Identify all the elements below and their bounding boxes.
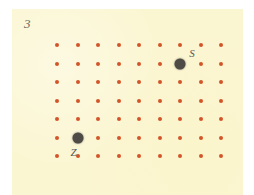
grid-dot <box>76 99 80 103</box>
grid-dot <box>55 62 59 66</box>
grid-dot <box>158 80 162 84</box>
grid-dot <box>158 43 162 47</box>
grid-dot <box>76 80 80 84</box>
grid-dot <box>55 154 59 158</box>
grid-dot <box>158 154 162 158</box>
grid-dot <box>178 43 182 47</box>
grid-dot <box>219 80 223 84</box>
grid-dot <box>96 117 100 121</box>
grid-dot <box>199 136 203 140</box>
grid-dot <box>117 80 121 84</box>
grid-dot <box>219 154 223 158</box>
grid-dot <box>199 99 203 103</box>
grid-dot <box>96 99 100 103</box>
grid-dot <box>137 154 141 158</box>
grid-dot <box>137 136 141 140</box>
grid-dot <box>199 62 203 66</box>
grid-dot <box>219 43 223 47</box>
grid-dot <box>158 136 162 140</box>
grid-dot <box>158 99 162 103</box>
grid-dot <box>96 80 100 84</box>
grid-dot <box>137 43 141 47</box>
grid-dot <box>96 62 100 66</box>
dot-lattice: SZ <box>0 0 254 195</box>
grid-dot <box>117 43 121 47</box>
grid-dot <box>117 99 121 103</box>
grid-dot <box>137 80 141 84</box>
marker-dot-z <box>72 132 83 143</box>
grid-dot <box>55 43 59 47</box>
grid-dot <box>96 43 100 47</box>
grid-dot <box>55 117 59 121</box>
marker-dot-s <box>175 58 186 69</box>
grid-dot <box>96 136 100 140</box>
grid-dot <box>199 80 203 84</box>
grid-dot <box>158 62 162 66</box>
grid-dot <box>178 136 182 140</box>
grid-dot <box>76 62 80 66</box>
marker-label-z: Z <box>70 146 76 157</box>
grid-dot <box>55 136 59 140</box>
grid-dot <box>76 43 80 47</box>
grid-dot <box>117 117 121 121</box>
grid-dot <box>96 154 100 158</box>
grid-dot <box>178 80 182 84</box>
grid-dot <box>178 99 182 103</box>
grid-dot <box>178 117 182 121</box>
grid-dot <box>137 99 141 103</box>
grid-dot <box>199 117 203 121</box>
grid-dot <box>199 43 203 47</box>
marker-label-s: S <box>189 47 195 58</box>
grid-dot <box>219 117 223 121</box>
grid-dot <box>117 62 121 66</box>
grid-dot <box>117 154 121 158</box>
figure-screenshot: 3 SZ <box>0 0 254 195</box>
grid-dot <box>158 117 162 121</box>
grid-dot <box>76 117 80 121</box>
grid-dot <box>199 154 203 158</box>
grid-dot <box>219 136 223 140</box>
grid-dot <box>178 154 182 158</box>
grid-dot <box>137 62 141 66</box>
grid-dot <box>55 99 59 103</box>
grid-dot <box>55 80 59 84</box>
grid-dot <box>219 62 223 66</box>
grid-dot <box>219 99 223 103</box>
grid-dot <box>117 136 121 140</box>
grid-dot <box>137 117 141 121</box>
